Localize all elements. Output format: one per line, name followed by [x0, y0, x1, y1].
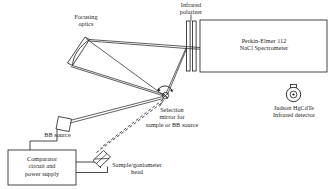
label-infrared-polarizer: Infrared polarizer	[164, 1, 218, 16]
label-focusing-optics: Focusing optics	[60, 13, 112, 28]
label-bb-source: BB source	[35, 131, 80, 138]
infrared-polarizer-bar-right	[193, 21, 197, 71]
beam-cross-down-right	[86, 39, 168, 99]
beam-top-lower	[90, 41, 187, 49]
focusing-optics-mirror	[68, 37, 90, 66]
label-spectrometer: Perkin-Elmer 112 NaCl Spectrometer	[224, 37, 304, 52]
beam-diagonal-to-mirror-upper	[166, 47, 187, 94]
label-sample-goniometer: Sample/goniometer head	[106, 161, 168, 176]
label-comparator: Comparator circuit and power supply	[10, 155, 74, 177]
comparator-wire-lower	[76, 167, 108, 173]
bb-source-box	[56, 117, 72, 132]
beam-optics-bottom-to-mirror-a	[73, 66, 165, 95]
beam-optics-bottom-to-mirror-b	[71, 67, 165, 97]
label-selection-mirror: Selection mirror for sample or BB source	[126, 106, 218, 128]
rotation-arrow-head-right	[170, 90, 173, 93]
infrared-polarizer-bar-left	[187, 21, 191, 71]
label-infrared-detector: Judson HgCdTe Infrared detector	[258, 104, 330, 119]
beam-diagonal-to-mirror-lower	[168, 49, 187, 95]
detector-center-dot	[292, 93, 294, 95]
diagram-canvas: Focusing optics Infrared polarizer Perki…	[0, 0, 333, 189]
beam-top-upper	[90, 40, 187, 47]
